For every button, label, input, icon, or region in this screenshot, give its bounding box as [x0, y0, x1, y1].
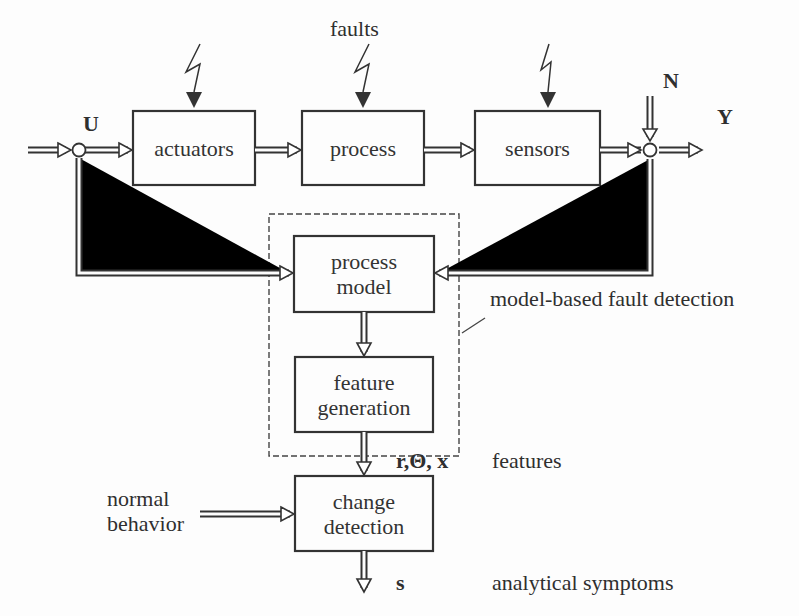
feature-generation-line2: generation [318, 395, 411, 420]
input-signal-label: U [83, 113, 99, 135]
fault-arrow-sensors-icon [540, 92, 556, 108]
change-detection-label: change detection [295, 476, 433, 551]
change-detection-line2: detection [324, 514, 405, 539]
faults-label: faults [330, 18, 379, 40]
input-junction [73, 144, 86, 157]
output-signal-label: Y [717, 106, 733, 128]
model-based-leader [462, 318, 485, 333]
feature-generation-label: feature generation [295, 357, 433, 432]
actuators-text: actuators [154, 136, 233, 161]
process-label: process [302, 111, 424, 185]
noise-signal-label: N [663, 70, 679, 92]
fault-arrow-process-icon [355, 92, 371, 108]
features-symbols-label: r,Θ, x [396, 450, 448, 472]
sensors-text: sensors [505, 136, 570, 161]
normal-behavior-label-line1: normal [107, 488, 169, 510]
analytical-symptoms-label: analytical symptoms [492, 572, 673, 594]
sensors-label: sensors [475, 111, 600, 185]
process-model-line2: model [337, 274, 392, 299]
process-model-label: process model [294, 236, 434, 312]
model-based-fault-detection-label: model-based fault detection [490, 288, 734, 310]
fault-arrow-actuators-icon [186, 92, 202, 108]
feature-generation-line1: feature [333, 370, 394, 395]
process-model-line1: process [331, 249, 397, 274]
output-junction [644, 144, 657, 157]
symptoms-symbol-label: s [396, 572, 405, 594]
normal-behavior-label-line2: behavior [107, 513, 184, 535]
process-text: process [330, 136, 396, 161]
change-detection-line1: change [333, 489, 395, 514]
features-label: features [492, 450, 562, 472]
actuators-label: actuators [133, 111, 255, 185]
fault-lightning-arrows [186, 44, 551, 92]
